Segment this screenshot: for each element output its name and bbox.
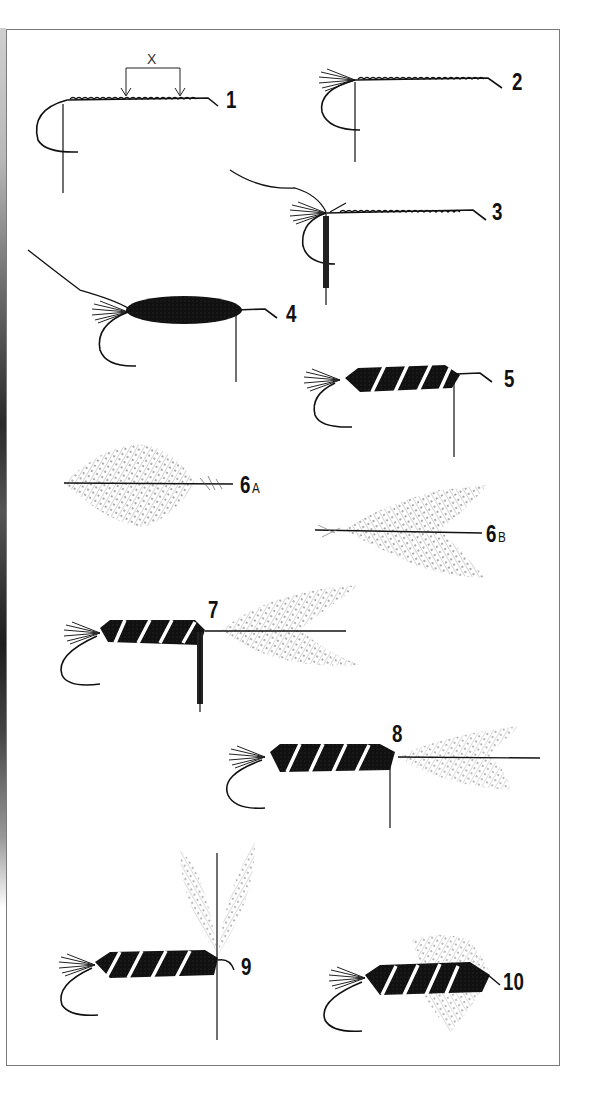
step-label-5: 5: [504, 367, 514, 391]
step-label-4: 4: [286, 302, 296, 326]
step-label-7: 7: [208, 598, 218, 622]
step-3-illustration: [230, 170, 486, 305]
step-8-illustration: [227, 726, 540, 828]
step-2-illustration: [319, 69, 502, 162]
step-label-2: 2: [512, 70, 522, 94]
step-9-illustration: [59, 842, 255, 1040]
step-6b-illustration: [315, 485, 488, 578]
step-sublabel-a: A: [252, 479, 260, 496]
step-label-3: 3: [492, 200, 502, 224]
dimension-x-label: X: [147, 52, 156, 66]
step-label-8: 8: [392, 722, 402, 746]
step-label-10: 10: [503, 970, 524, 994]
step-6a-illustration: [64, 444, 233, 527]
step-sublabel-b: B: [498, 528, 506, 545]
step-1-illustration: [37, 68, 218, 193]
step-4-illustration: [28, 250, 277, 382]
step-label-1: 1: [226, 88, 236, 112]
step-label-6b: 6B: [486, 522, 506, 546]
step-label-9: 9: [241, 955, 251, 979]
step-10-illustration: [324, 935, 500, 1032]
step-5-illustration: [304, 364, 492, 457]
step-label-6a: 6A: [240, 473, 260, 497]
fly-tying-illustrations: [0, 0, 592, 1093]
